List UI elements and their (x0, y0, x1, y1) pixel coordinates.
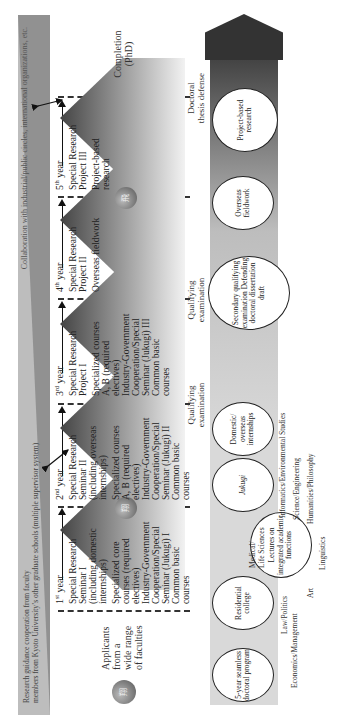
year3-line: Project I (78, 301, 88, 396)
feature-seamless-program: 5-year seamless doctoral program (212, 648, 274, 702)
year4-line: Special Research (68, 197, 78, 292)
feature-internships: Domestic/ overseas internships (212, 402, 274, 456)
year4-suffix: th (54, 282, 60, 287)
field-informatics: Informatics/Environmental Studies (278, 413, 287, 518)
feature-project-research: Project-based research (212, 88, 278, 152)
year3-heading: 3rd year (54, 366, 65, 396)
applicants-line3: wide range (122, 625, 133, 670)
applicants-seal-icon: 翔 (112, 680, 136, 704)
year5-seal-icon: 飛 (115, 187, 137, 209)
feature-residential-college: Residential college (212, 576, 274, 630)
year3-line: Common basic (151, 301, 161, 396)
year5-word: year (54, 161, 65, 178)
year4-line: Project II (78, 197, 88, 292)
year1-line: Special Research (68, 509, 78, 604)
completion-line1: Completion (112, 12, 123, 96)
year1-heading: 1st year (54, 575, 65, 604)
field-art: Art (306, 588, 315, 598)
year2-line: Seminar (Jukugi) II (161, 405, 171, 500)
year5-heading: 5th year (54, 161, 65, 190)
field-medical: Medical/ Life Sciences (248, 527, 266, 568)
year5-line: Special Research (68, 95, 78, 190)
year1-line: (including domestic (88, 509, 98, 604)
qualifying-exam-1-line1: Qualifying (186, 370, 196, 440)
year3-line: Industry-Government (121, 301, 131, 396)
qualifying-exam-2-line2: examination (196, 265, 206, 335)
doctoral-thesis-defense: Doctoral thesis defense (186, 56, 206, 140)
year1-line: Seminar I (78, 509, 88, 604)
year1-line: Specialized core (111, 509, 121, 604)
year3-content: Special Research Project I Specialized c… (68, 301, 171, 396)
year2-line: Specialized courses (111, 405, 121, 500)
year4-number: 4 (54, 287, 65, 292)
year1-line: Common basic (171, 509, 181, 604)
year2-suffix: nd (54, 489, 60, 495)
year2-line: Common basic (171, 405, 181, 500)
year1-content: Special Research Seminar I (including do… (68, 509, 191, 604)
year5-content: Special Research Project III Project-bas… (68, 95, 111, 190)
applicants-line1: Applicants (100, 625, 111, 670)
year2-line: A, B (required (121, 405, 131, 500)
applicants-line4: of faculties (133, 625, 144, 670)
field-law: Law/Politics (280, 596, 289, 634)
year2-line: Industry-Government (141, 405, 151, 500)
year1-line: courses (181, 509, 191, 604)
year1-word: year (54, 575, 65, 592)
year4-content: Special Research Project II Overseas fie… (68, 197, 101, 292)
year1-line: internships) (98, 509, 108, 604)
feature-jukugi: Jukugi (212, 458, 274, 512)
year1-line: electives) (131, 509, 141, 604)
year1-line: Cooperation/Special (151, 509, 161, 604)
year5-line: Project III (78, 95, 88, 190)
year1-line: Seminar (Jukugi) I (161, 509, 171, 604)
year2-line: internships) (98, 405, 108, 500)
year2-line: electives) (131, 405, 141, 500)
year2-content: Special Research Seminar II (including o… (68, 405, 191, 500)
field-linguistics: Linguistics (318, 537, 327, 570)
year2-line: Seminar II (78, 405, 88, 500)
year2-number: 2 (54, 495, 65, 500)
year1-line: courses (required (121, 509, 131, 604)
year3-line: Specialized courses (91, 301, 101, 396)
completion-phd: Completion (PhD) (112, 12, 134, 96)
feature-secondary-exam: Secondary qualifying examination Defendi… (208, 256, 290, 330)
year4-heading: 4th year (54, 263, 65, 292)
year1-arrow (62, 510, 63, 580)
year2-line: (including overseas (88, 405, 98, 500)
divider-start (58, 610, 190, 612)
field-medical-line1: Medical/ (248, 527, 257, 568)
year1-line: Industry-Government (141, 509, 151, 604)
year2-word: year (54, 469, 65, 486)
qualifying-exam-1: Qualifying examination (186, 370, 206, 440)
year3-line: courses (161, 301, 171, 396)
year5-suffix: th (54, 180, 60, 185)
year4-word: year (54, 263, 65, 280)
year3-line: electives) (111, 301, 121, 396)
year3-suffix: rd (54, 386, 60, 391)
year1-suffix: st (54, 595, 60, 599)
field-science: Science/Engineering (292, 458, 301, 520)
year3-line: Special Research (68, 301, 78, 396)
applicants-label: Applicants from a wide range of facultie… (100, 625, 144, 670)
year5-line: research (101, 95, 111, 190)
field-economics: Economics/Management (290, 613, 299, 688)
year3-word: year (54, 366, 65, 383)
year2-heading: 2nd year (54, 469, 65, 500)
defense-line2: thesis defense (196, 56, 206, 140)
year3-number: 3 (54, 391, 65, 396)
year3-arrow (62, 303, 63, 373)
qualifying-exam-2-line1: Qualifying (186, 265, 196, 335)
applicants-line2: from a (111, 625, 122, 670)
year4-arrow (62, 201, 63, 268)
year3-line: Seminar (Jukugi) III (141, 301, 151, 396)
year3-line: Cooperation/Special (131, 301, 141, 396)
defense-line1: Doctoral (186, 56, 196, 140)
year5-number: 5 (54, 185, 65, 190)
year3-line: A, B (required (101, 301, 111, 396)
year2-line: Cooperation/Special (151, 405, 161, 500)
year2-arrow (62, 408, 63, 476)
field-humanities: Humanities/Philosophy (306, 454, 315, 524)
year4-line: Overseas fieldwork (91, 197, 101, 292)
year1-number: 1 (54, 599, 65, 604)
qualifying-exam-2: Qualifying examination (186, 265, 206, 335)
